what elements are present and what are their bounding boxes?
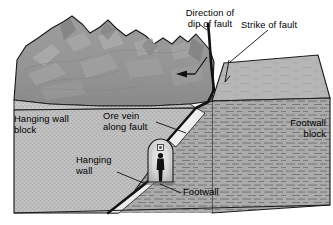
label-hanging-wall: Hanging wall (76, 155, 136, 176)
label-ore-vein: Ore vein along fault (103, 111, 169, 132)
label-strike: Strike of fault (241, 20, 333, 31)
label-footwall: Footwall (183, 187, 247, 198)
mountain-terrain (14, 16, 214, 106)
label-footwall-block: Footwall block (236, 118, 326, 139)
diagram-canvas: Direction of dip of fault Strike of faul… (0, 0, 333, 225)
footwall-plateau-top (212, 55, 330, 101)
label-hanging-wall-block: Hanging wall block (14, 114, 98, 135)
mine-lamp (158, 145, 164, 151)
